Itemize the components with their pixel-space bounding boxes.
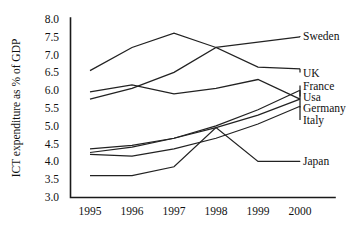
y-tick-3-0: 3.0 — [45, 191, 60, 203]
series-line-japan — [90, 128, 300, 176]
series-label-japan: Japan — [303, 155, 329, 168]
x-tick-2000: 2000 — [289, 205, 312, 217]
x-tick-1995: 1995 — [79, 205, 102, 217]
x-tick-1996: 1996 — [121, 205, 144, 217]
ict-expenditure-line-chart: ICT expenditure as % of GDP 8.0 7.5 7.0 … — [0, 0, 359, 237]
series-labels: Sweden UK France Usa Germany Italy Japan — [303, 30, 346, 168]
series-label-uk: UK — [303, 67, 320, 79]
x-tick-1997: 1997 — [163, 205, 186, 217]
y-tick-4-5: 4.5 — [45, 138, 60, 150]
series-label-italy: Italy — [303, 114, 324, 127]
y-tick-7-0: 7.0 — [45, 49, 60, 61]
series-line-france — [90, 80, 300, 100]
y-axis-tick-labels: 8.0 7.5 7.0 6.5 6.0 5.5 5.0 4.5 4.0 3.5 … — [45, 13, 60, 203]
x-tick-1999: 1999 — [247, 205, 270, 217]
series-line-germany — [90, 99, 300, 152]
y-axis-title: ICT expenditure as % of GDP — [10, 39, 23, 178]
chart-canvas: ICT expenditure as % of GDP 8.0 7.5 7.0 … — [0, 0, 359, 237]
y-tick-3-5: 3.5 — [45, 173, 60, 185]
series-label-germany: Germany — [303, 102, 346, 115]
y-tick-7-5: 7.5 — [45, 31, 60, 43]
y-tick-5-0: 5.0 — [45, 120, 60, 132]
y-tick-5-5: 5.5 — [45, 102, 60, 114]
series-label-sweden: Sweden — [303, 30, 340, 42]
series-layer — [90, 33, 300, 175]
y-tick-4-0: 4.0 — [45, 155, 60, 167]
series-line-sweden — [90, 33, 300, 70]
y-tick-6-5: 6.5 — [45, 66, 60, 78]
y-tick-6-0: 6.0 — [45, 84, 60, 96]
x-axis-tick-labels: 1995 1996 1997 1998 1999 2000 — [79, 205, 312, 217]
x-tick-1998: 1998 — [205, 205, 228, 217]
y-tick-8-0: 8.0 — [45, 13, 60, 25]
